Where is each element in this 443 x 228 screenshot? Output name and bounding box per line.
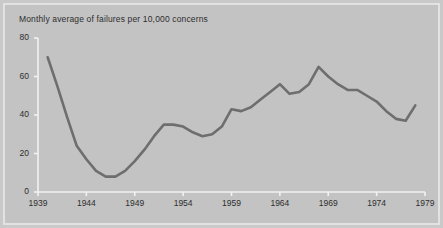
y-tick-label: 40	[7, 109, 29, 119]
data-line-series-1	[48, 57, 416, 176]
x-tick-label: 1949	[118, 198, 152, 208]
x-tick-label: 1954	[166, 198, 200, 208]
x-tick-label: 1979	[408, 198, 442, 208]
y-tick-label: 0	[7, 186, 29, 196]
chart-plot-area	[0, 0, 443, 228]
x-tick-label: 1959	[215, 198, 249, 208]
x-tick-label: 1969	[311, 198, 345, 208]
y-tick-label: 20	[7, 148, 29, 158]
y-tick-label: 80	[7, 32, 29, 42]
chart-figure: Monthly average of failures per 10,000 c…	[0, 0, 443, 228]
x-tick-label: 1944	[69, 198, 103, 208]
x-tick-label: 1939	[21, 198, 55, 208]
y-tick-label: 60	[7, 71, 29, 81]
axis-ticks	[34, 38, 425, 196]
x-tick-label: 1964	[263, 198, 297, 208]
x-tick-label: 1974	[360, 198, 394, 208]
